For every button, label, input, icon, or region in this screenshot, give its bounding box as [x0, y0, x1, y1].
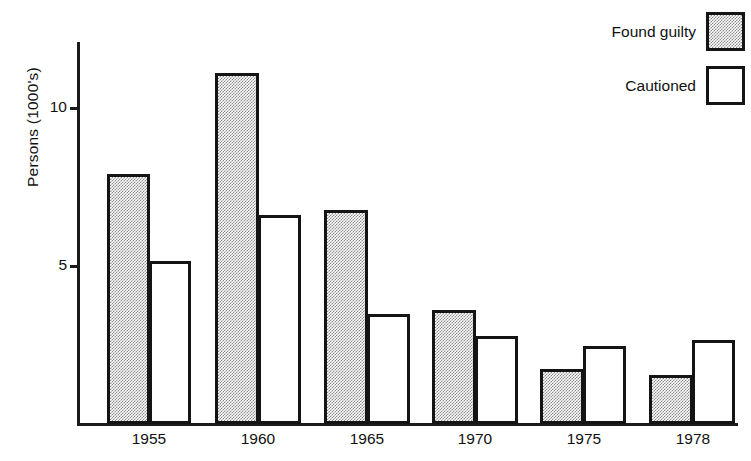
bar-cautioned-1955 — [149, 261, 191, 424]
x-tick-label-1955: 1955 — [104, 430, 194, 447]
bar-chart: Persons (1000's) 10 5 1955 1960 1965 197… — [0, 0, 751, 461]
legend-label-cautioned: Cautioned — [625, 77, 696, 95]
bar-found-guilty-1965 — [324, 210, 368, 424]
bar-found-guilty-1975 — [540, 369, 584, 424]
bar-cautioned-1965 — [367, 314, 410, 424]
bar-found-guilty-1970 — [432, 310, 476, 424]
legend-swatch-white-square-icon — [706, 66, 745, 105]
bar-found-guilty-1978 — [649, 375, 693, 424]
legend-item-found-guilty: Found guilty — [520, 12, 745, 51]
legend-item-cautioned: Cautioned — [520, 66, 745, 105]
x-tick-label-1960: 1960 — [213, 430, 303, 447]
bar-cautioned-1978 — [692, 340, 735, 424]
bar-cautioned-1960 — [258, 215, 301, 424]
x-tick-label-1965: 1965 — [322, 430, 412, 447]
legend-label-found-guilty: Found guilty — [612, 23, 696, 41]
x-tick-label-1975: 1975 — [539, 430, 629, 447]
x-tick-label-1970: 1970 — [430, 430, 520, 447]
bar-cautioned-1975 — [583, 346, 626, 424]
x-tick-label-1978: 1978 — [648, 430, 738, 447]
bar-found-guilty-1960 — [215, 73, 259, 424]
legend-swatch-stippled-square-icon — [706, 12, 745, 51]
bar-cautioned-1970 — [475, 336, 518, 424]
bar-found-guilty-1955 — [107, 174, 150, 424]
